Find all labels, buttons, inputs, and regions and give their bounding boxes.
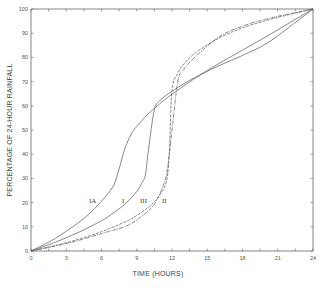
y-tick-label: 30 bbox=[22, 175, 28, 181]
y-tick-label: 80 bbox=[22, 54, 28, 60]
curve-label-I: I bbox=[122, 197, 125, 205]
curve-label-II: II bbox=[162, 197, 167, 205]
curves bbox=[31, 9, 313, 251]
x-tick-label: 24 bbox=[310, 255, 316, 261]
x-axis-title: TIME (HOURS) bbox=[132, 270, 183, 278]
x-tick-label: 3 bbox=[65, 255, 68, 261]
x-tick-label: 9 bbox=[135, 255, 138, 261]
curve-label-IA: IA bbox=[89, 197, 96, 205]
y-tick-label: 40 bbox=[22, 151, 28, 157]
x-tick-label: 12 bbox=[169, 255, 175, 261]
curve-type-iii bbox=[31, 9, 313, 251]
y-tick-label: 70 bbox=[22, 79, 28, 85]
x-tick-label: 15 bbox=[204, 255, 210, 261]
rainfall-distribution-chart: 036912151821240102030405060708090100 IA … bbox=[0, 0, 321, 293]
y-axis-title: PERCENTAGE OF 24-HOUR RAINFALL bbox=[6, 63, 13, 196]
y-tick-label: 90 bbox=[22, 30, 28, 36]
x-tick-label: 18 bbox=[239, 255, 245, 261]
y-tick-label: 10 bbox=[22, 224, 28, 230]
y-tick-label: 0 bbox=[25, 248, 28, 254]
x-tick-label: 6 bbox=[100, 255, 103, 261]
x-tick-label: 0 bbox=[29, 255, 32, 261]
y-tick-label: 20 bbox=[22, 200, 28, 206]
y-tick-label: 60 bbox=[22, 103, 28, 109]
y-tick-label: 50 bbox=[22, 127, 28, 133]
axis-tick-labels: 036912151821240102030405060708090100 bbox=[19, 6, 316, 261]
y-tick-label: 100 bbox=[19, 6, 28, 12]
curve-label-III: III bbox=[140, 197, 148, 205]
x-tick-label: 21 bbox=[275, 255, 281, 261]
